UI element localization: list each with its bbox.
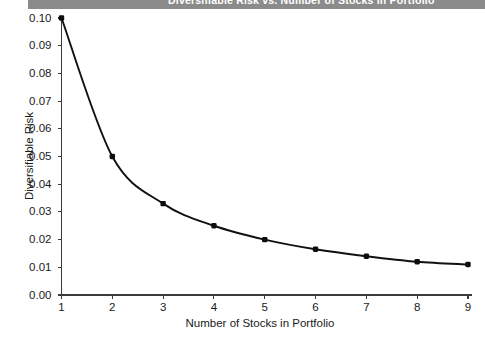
y-tick-label: 0.00 — [12, 289, 52, 301]
diversifiable-risk-chart: 0.000.010.020.030.040.050.060.070.080.09… — [0, 0, 485, 346]
x-tick-label: 1 — [51, 301, 73, 314]
y-tick-label: 0.01 — [12, 261, 52, 273]
data-series — [59, 15, 471, 267]
risk-curve — [62, 18, 469, 265]
y-tick-label: 0.10 — [12, 12, 52, 24]
data-point — [160, 201, 165, 206]
data-point-markers — [59, 15, 471, 267]
data-point — [465, 262, 470, 267]
data-point — [364, 254, 369, 259]
x-tick-label: 6 — [305, 301, 327, 314]
data-point — [59, 15, 64, 20]
axes — [58, 16, 473, 299]
y-axis-ticks — [58, 18, 62, 295]
x-tick-label: 2 — [101, 301, 123, 314]
data-point — [313, 247, 318, 252]
x-tick-label: 5 — [254, 301, 276, 314]
data-point — [414, 259, 419, 264]
plot-area — [0, 0, 485, 346]
x-axis-ticks — [62, 295, 469, 299]
y-tick-label: 0.09 — [12, 39, 52, 51]
x-tick-label: 4 — [203, 301, 225, 314]
x-tick-label: 9 — [457, 301, 479, 314]
chart-page: Diversifiable Risk vs. Number of Stocks … — [0, 0, 485, 346]
x-tick-label: 8 — [406, 301, 428, 314]
data-point — [211, 223, 216, 228]
x-tick-label: 3 — [152, 301, 174, 314]
x-tick-label: 7 — [355, 301, 377, 314]
x-axis-title: Number of Stocks in Portfolio — [60, 317, 460, 329]
y-axis-title: Diversifiable Risk — [23, 76, 35, 236]
data-point — [262, 237, 267, 242]
data-point — [110, 154, 115, 159]
